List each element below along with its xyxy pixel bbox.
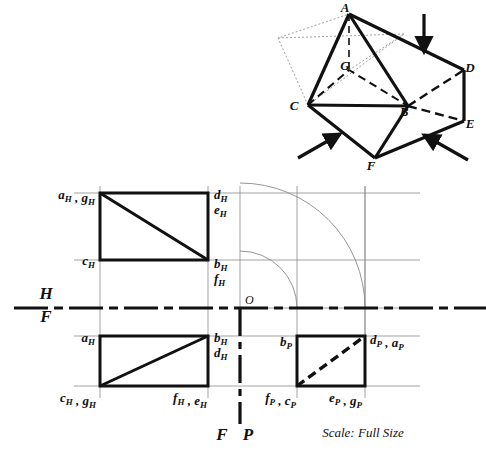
h-plane-label: H [38, 284, 53, 303]
pictorial-vertex-label-a: A [340, 0, 350, 15]
profile-view-label-bp: bP [280, 334, 293, 351]
profile-view-hidden-diagonal [297, 336, 365, 386]
top-view-label-ch: cH [82, 253, 96, 270]
fp-p-label: P [242, 425, 254, 444]
front-view-label-af: aH [81, 330, 96, 347]
pictorial-construction-g [349, 34, 404, 70]
pictorial-hidden-edge-BD [408, 70, 464, 106]
right-front-arrow [424, 135, 468, 160]
drawing-sheet: HFFPOaH , gHcHdHeHbHfHaHcH , gHbHdHfH , … [0, 0, 486, 458]
pictorial-edge-CF [308, 105, 375, 158]
front-view-diagonal [100, 336, 208, 386]
pictorial-edge-CB [308, 105, 408, 106]
top-view-label-ah-gh: aH , gH [58, 187, 96, 207]
profile-view-label-ep-gp: eP , gP [329, 390, 363, 410]
pictorial-vertex-label-b: B [399, 104, 409, 119]
top-view-label-eh: eH [214, 202, 228, 219]
pictorial-vertex-label-e: E [465, 116, 475, 131]
pictorial-vertex-label-g: G [340, 58, 350, 73]
left-front-arrow [298, 134, 340, 158]
front-view-label-cf-gf: cH , gH [60, 390, 97, 410]
origin-label: O [245, 293, 254, 307]
pictorial-vertex-label-c: C [290, 98, 299, 113]
technical-drawing-canvas: HFFPOaH , gHcHdHeHbHfHaHcH , gHbHdHfH , … [0, 0, 486, 458]
pictorial-vertex-label-f: F [366, 158, 376, 173]
profile-view-label-fp-cp: fP , cP [265, 390, 296, 410]
outer-miter-arc [240, 183, 365, 308]
front-view-label-df: dH [214, 345, 229, 362]
top-view-label-fh: fH [214, 271, 226, 288]
top-view-diagonal [100, 193, 208, 260]
pictorial-vertex-label-d: D [464, 60, 475, 75]
front-view-label-ff-ef: fH , eH [173, 390, 208, 410]
pictorial-hidden-edge-BE [408, 106, 464, 121]
f-plane-label: F [39, 307, 52, 326]
profile-view-label-dp-ap: dP , aP [370, 332, 404, 352]
fp-f-label: F [215, 425, 228, 444]
